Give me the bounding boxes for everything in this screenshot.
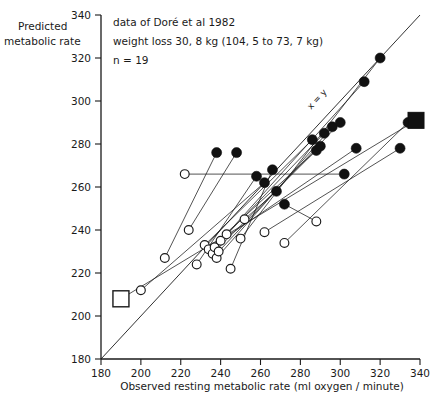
y-tick-label: 180 xyxy=(71,353,91,365)
annotation-source: data of Doré et al 1982 xyxy=(113,16,235,28)
y-axis-title: Predicted metabolic rate xyxy=(4,20,81,47)
data-point-filled-circle xyxy=(252,171,262,181)
identity-line xyxy=(101,15,420,359)
data-point-open-circle xyxy=(214,247,223,256)
data-point-filled-circle xyxy=(395,143,405,153)
y-tick-label: 240 xyxy=(71,224,91,236)
data-point-filled-circle xyxy=(271,186,281,196)
data-point-filled-circle xyxy=(339,169,349,179)
x-tick-label: 240 xyxy=(211,367,231,379)
connector-line xyxy=(189,153,237,230)
data-point-open-circle xyxy=(226,264,235,273)
y-tick-label: 220 xyxy=(71,267,91,279)
data-point-open-circle xyxy=(240,215,249,224)
data-point-open-circle xyxy=(184,226,193,235)
data-point-filled-circle xyxy=(335,118,345,128)
data-point-open-circle xyxy=(136,286,145,295)
x-tick-label: 200 xyxy=(131,367,151,379)
x-tick-label: 280 xyxy=(290,367,310,379)
annotation-block: data of Doré et al 1982 weight loss 30, … xyxy=(113,16,323,66)
data-point-filled-circle xyxy=(267,165,277,175)
connector-line xyxy=(221,148,357,240)
data-point-open-circle xyxy=(192,260,201,269)
group-mean-filled-square xyxy=(408,112,424,128)
data-point-open-circle xyxy=(222,230,231,239)
group-mean-open-square xyxy=(113,291,129,307)
y-tick-label: 260 xyxy=(71,181,91,193)
data-point-filled-circle xyxy=(259,178,269,188)
x-tick-label: 300 xyxy=(330,367,350,379)
data-point-open-circle xyxy=(236,234,245,243)
y-tick-label: 280 xyxy=(71,138,91,150)
y-axis-title-line1: Predicted xyxy=(18,20,67,32)
identity-line-label: x = y xyxy=(305,87,329,112)
data-point-filled-circle xyxy=(351,143,361,153)
y-tick-label: 340 xyxy=(71,9,91,21)
annotation-weight-loss: weight loss 30, 8 kg (104, 5 to 73, 7 kg… xyxy=(113,35,323,47)
data-point-filled-circle xyxy=(307,135,317,145)
y-tick-label: 300 xyxy=(71,95,91,107)
x-axis-ticks: 180200220240260280300320340 xyxy=(91,359,430,379)
data-point-filled-circle xyxy=(279,199,289,209)
data-point-open-circle xyxy=(260,228,269,237)
data-point-open-circle xyxy=(312,217,321,226)
y-tick-label: 320 xyxy=(71,52,91,64)
y-axis-ticks: 180200220240260280300320340 xyxy=(71,9,101,365)
x-tick-label: 220 xyxy=(171,367,191,379)
data-point-open-circle xyxy=(280,239,289,248)
x-axis-title: Observed resting metabolic rate (ml oxyg… xyxy=(120,380,404,392)
data-point-filled-circle xyxy=(319,128,329,138)
connector-line xyxy=(121,120,416,298)
annotation-sample-size: n = 19 xyxy=(113,54,149,66)
data-point-filled-circle xyxy=(359,77,369,87)
data-point-filled-circle xyxy=(315,141,325,151)
y-tick-label: 200 xyxy=(71,310,91,322)
x-tick-label: 260 xyxy=(250,367,270,379)
y-axis-title-line2: metabolic rate xyxy=(4,35,81,47)
x-tick-label: 180 xyxy=(91,367,111,379)
data-point-open-circle xyxy=(160,254,169,263)
data-point-open-circle xyxy=(180,170,189,179)
x-tick-label: 320 xyxy=(370,367,390,379)
connector-line xyxy=(141,183,265,291)
data-point-filled-circle xyxy=(212,148,222,158)
connector-line xyxy=(215,133,325,247)
chart-canvas: data of Doré et al 1982 weight loss 30, … xyxy=(0,0,443,402)
metabolic-rate-scatter-figure: data of Doré et al 1982 weight loss 30, … xyxy=(0,0,443,402)
connector-line xyxy=(284,204,316,221)
data-point-filled-circle xyxy=(375,53,385,63)
connector-line xyxy=(227,82,365,235)
data-points-layer xyxy=(113,53,424,307)
x-tick-label: 340 xyxy=(410,367,430,379)
data-point-filled-circle xyxy=(232,148,242,158)
